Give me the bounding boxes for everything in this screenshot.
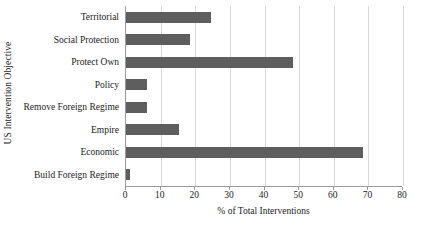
bar-chart-figure: US Intervention Objective TerritorialSoc… bbox=[0, 0, 437, 229]
category-label: Economic bbox=[14, 141, 123, 164]
category-axis: TerritorialSocial ProtectionProtect OwnP… bbox=[14, 6, 123, 186]
bar-slot bbox=[126, 141, 402, 164]
bar bbox=[126, 34, 190, 45]
category-label: Territorial bbox=[14, 6, 123, 29]
x-axis-tick-label: 20 bbox=[190, 190, 200, 200]
category-label: Protect Own bbox=[14, 51, 123, 74]
bar-slot bbox=[126, 119, 402, 142]
bar-slot bbox=[126, 6, 402, 29]
bar-slot bbox=[126, 29, 402, 52]
category-label: Remove Foreign Regime bbox=[14, 96, 123, 119]
y-axis-title-text: US Intervention Objective bbox=[3, 42, 13, 145]
x-axis-title: % of Total Interventions bbox=[125, 206, 402, 216]
x-axis-tick-labels: 01020304050607080 bbox=[125, 190, 402, 204]
bar bbox=[126, 79, 147, 90]
bar bbox=[126, 124, 179, 135]
bar-slot bbox=[126, 51, 402, 74]
x-axis-tick-label: 10 bbox=[155, 190, 165, 200]
x-axis-tick-label: 70 bbox=[363, 190, 373, 200]
bar bbox=[126, 12, 211, 23]
x-axis-tick-label: 30 bbox=[224, 190, 234, 200]
bar-slot bbox=[126, 164, 402, 187]
bar bbox=[126, 102, 147, 113]
gridline bbox=[403, 6, 404, 186]
x-axis-tick-label: 50 bbox=[293, 190, 303, 200]
bar bbox=[126, 147, 363, 158]
plot-area bbox=[125, 6, 402, 186]
bar bbox=[126, 169, 130, 180]
category-label: Social Protection bbox=[14, 29, 123, 52]
bar-slot bbox=[126, 74, 402, 97]
category-label: Empire bbox=[14, 119, 123, 142]
x-axis-tick-label: 80 bbox=[397, 190, 407, 200]
x-axis-tick-label: 0 bbox=[123, 190, 128, 200]
bar bbox=[126, 57, 293, 68]
x-axis-tick-label: 40 bbox=[259, 190, 269, 200]
bar-slot bbox=[126, 96, 402, 119]
category-label: Policy bbox=[14, 74, 123, 97]
x-axis-tick-label: 60 bbox=[328, 190, 338, 200]
category-label: Build Foreign Regime bbox=[14, 164, 123, 187]
bars-layer bbox=[126, 6, 402, 186]
